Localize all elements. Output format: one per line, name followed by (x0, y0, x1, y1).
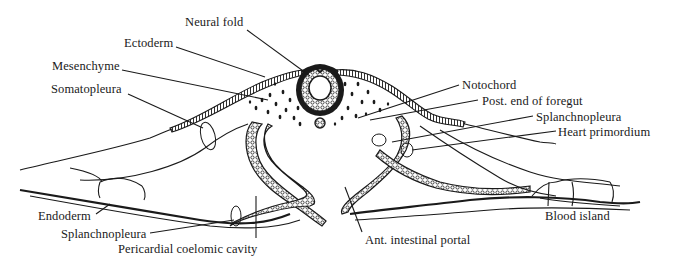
label-ant-intestinal-portal: Ant. intestinal portal (365, 233, 470, 247)
neural-tube (296, 64, 344, 116)
label-splanchnopleura-left: Splanchnopleura (61, 227, 147, 241)
label-post-end-foregut: Post. end of foregut (482, 94, 583, 108)
label-heart-primordium: Heart primordium (558, 125, 650, 139)
somatopleura-marker (198, 121, 219, 152)
label-somatopleura: Somatopleura (51, 82, 122, 96)
right-splanchnopleura-marker (372, 134, 386, 146)
label-pericardial-coelomic-cavity: Pericardial coelomic cavity (118, 242, 257, 256)
notochord (315, 118, 325, 128)
label-splanchnopleura-right: Splanchnopleura (536, 110, 622, 124)
label-notochord: Notochord (462, 78, 516, 92)
leader-lines (96, 30, 556, 238)
label-endoderm: Endoderm (38, 209, 91, 223)
label-blood-island: Blood island (545, 209, 610, 223)
label-ectoderm: Ectoderm (124, 36, 173, 50)
figure-stage: Neural fold Ectoderm Mesenchyme Somatopl… (0, 0, 693, 272)
label-neural-fold: Neural fold (185, 15, 243, 29)
label-mesenchyme: Mesenchyme (52, 59, 120, 73)
